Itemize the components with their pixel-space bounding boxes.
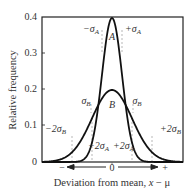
x-plus-label: +	[162, 162, 168, 173]
x-zero-label: 0	[110, 162, 115, 173]
minus-2sigma-a-label: −2σA	[88, 140, 110, 153]
y-tick-label: 0.4	[25, 11, 38, 22]
plus-2sigma-b-label: +2σB	[160, 123, 182, 136]
plus-sigma-a-label: +σA	[125, 23, 142, 36]
y-tick-label: 0.2	[25, 83, 38, 94]
plus-sigma-b-label: σB	[132, 95, 142, 108]
chart: 0.4 0.3 0.2 0.1 0 Relative frequency A B…	[0, 0, 191, 190]
curve-a-label: A	[108, 31, 116, 42]
minus-sigma-a-label: −σA	[83, 23, 100, 36]
minus-sigma-b-label: σB	[81, 95, 91, 108]
curve-b-label: B	[109, 99, 115, 110]
y-tick-label: 0.1	[25, 119, 38, 130]
x-axis-title: Deviation from mean, x − μ	[54, 177, 171, 188]
y-tick-label: 0.3	[25, 47, 38, 58]
x-minus-label: −	[59, 162, 65, 173]
y-axis-title: Relative frequency	[7, 49, 18, 129]
y-tick-label: 0	[32, 156, 37, 167]
minus-2sigma-b-label: −2σB	[45, 123, 67, 136]
